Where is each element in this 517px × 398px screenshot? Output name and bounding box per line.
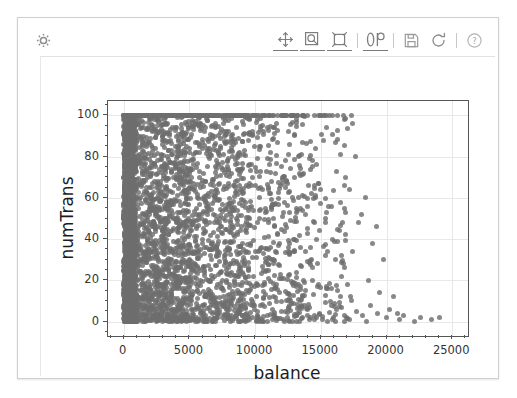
x-tick-mark-minor — [202, 335, 203, 338]
zoom-rect-icon[interactable] — [300, 29, 325, 51]
scatter-point — [235, 178, 240, 183]
scatter-point — [338, 223, 343, 228]
scatter-point — [252, 144, 257, 149]
scatter-point — [308, 153, 313, 158]
scatter-point — [205, 118, 210, 123]
scatter-point — [318, 187, 323, 192]
x-tick-label: 5000 — [174, 343, 203, 357]
x-tick-mark-minor — [425, 335, 426, 338]
scatter-point — [231, 232, 236, 237]
scatter-point — [310, 164, 315, 169]
scatter-point — [179, 131, 184, 136]
scatter-point — [227, 285, 232, 290]
scatter-point — [364, 319, 369, 324]
scatter-point — [224, 227, 229, 232]
scatter-point — [270, 137, 275, 142]
scatter-point — [126, 290, 131, 295]
scatter-point — [246, 138, 251, 143]
scatter-point — [122, 259, 127, 264]
scatter-point — [381, 257, 386, 262]
scatter-point — [248, 199, 253, 204]
scatter-point — [340, 258, 345, 263]
scatter-point — [218, 136, 223, 141]
x-tick-mark-minor — [294, 335, 295, 338]
scatter-point — [292, 157, 297, 162]
scatter-point — [437, 315, 442, 320]
scatter-point — [302, 280, 307, 285]
scatter-point — [286, 152, 291, 157]
configure-subplots-icon[interactable] — [363, 29, 388, 51]
reset-view-icon[interactable] — [327, 29, 352, 51]
scatter-point — [286, 238, 291, 243]
scatter-point — [338, 294, 343, 299]
scatter-point — [285, 203, 290, 208]
y-tick-mark-minor — [105, 166, 108, 167]
scatter-point — [243, 312, 248, 317]
refresh-icon[interactable] — [426, 29, 451, 51]
scatter-point — [312, 183, 317, 188]
scatter-point — [147, 185, 152, 190]
x-tick-label: 0 — [119, 343, 126, 357]
scatter-point — [306, 183, 311, 188]
x-tick-mark-minor — [438, 335, 439, 338]
scatter-point — [208, 267, 213, 272]
scatter-point — [229, 116, 234, 121]
scatter-point — [312, 317, 317, 322]
scatter-point — [216, 151, 221, 156]
x-axis-label: balance — [207, 363, 367, 383]
scatter-point — [185, 180, 190, 185]
scatter-point — [141, 212, 146, 217]
svg-text:?: ? — [472, 36, 477, 46]
scatter-point — [299, 297, 304, 302]
save-figure-icon[interactable] — [399, 29, 424, 51]
scatter-point — [360, 313, 365, 318]
x-tick-mark-minor — [346, 335, 347, 338]
scatter-point — [266, 143, 271, 148]
x-tick-mark-minor — [307, 335, 308, 338]
scatter-point — [429, 317, 434, 322]
scatter-point — [139, 153, 144, 158]
x-tick-mark — [451, 335, 452, 339]
scatter-point — [193, 239, 198, 244]
scatter-point — [210, 201, 215, 206]
scatter-point — [197, 202, 202, 207]
scatter-point — [125, 147, 130, 152]
scatter-point — [363, 195, 368, 200]
axes-plot-area[interactable] — [107, 100, 469, 337]
pan-axes-icon[interactable] — [273, 29, 298, 51]
scatter-point — [266, 234, 271, 239]
scatter-point — [264, 209, 269, 214]
x-tick-mark — [386, 335, 387, 339]
scatter-point — [131, 122, 136, 127]
scatter-point — [235, 301, 240, 306]
scatter-point — [317, 228, 322, 233]
scatter-point — [298, 166, 303, 171]
scatter-point — [267, 162, 272, 167]
scatter-point — [269, 179, 274, 184]
scatter-point — [274, 161, 279, 166]
scatter-point — [347, 317, 352, 322]
scatter-point — [323, 242, 328, 247]
scatter-point — [248, 243, 253, 248]
scatter-point — [124, 267, 129, 272]
scatter-point — [303, 212, 308, 217]
scatter-point — [160, 207, 165, 212]
y-tick-mark-minor — [105, 135, 108, 136]
scatter-point — [127, 277, 132, 282]
scatter-point — [345, 126, 350, 131]
gear-icon — [36, 33, 51, 48]
scatter-point — [129, 228, 134, 233]
scatter-point — [160, 285, 165, 290]
scatter-point — [232, 183, 237, 188]
x-tick-label: 25000 — [433, 343, 470, 357]
scatter-point — [263, 256, 268, 261]
scatter-point — [297, 153, 302, 158]
help-icon[interactable]: ? — [462, 29, 487, 51]
scatter-point — [258, 169, 263, 174]
scatter-point — [257, 147, 262, 152]
scatter-point — [287, 142, 292, 147]
scatter-point — [374, 224, 379, 229]
scatter-point — [287, 189, 292, 194]
scatter-point — [182, 147, 187, 152]
scatter-point — [324, 210, 329, 215]
